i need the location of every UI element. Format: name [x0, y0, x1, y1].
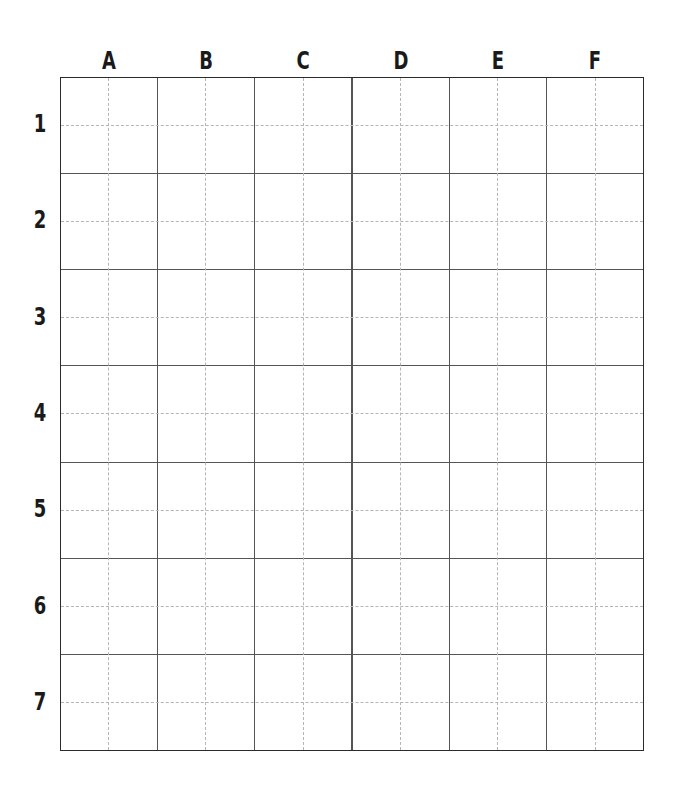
row-center-guide: [61, 221, 643, 222]
row-divider: [61, 173, 643, 174]
row-center-guide: [61, 702, 643, 703]
row-center-guide: [61, 125, 643, 126]
row-center-guide: [61, 606, 643, 607]
row-divider: [61, 654, 643, 655]
column-label-e: E: [492, 48, 504, 73]
column-label-d: D: [393, 48, 408, 73]
row-label-4: 4: [34, 400, 47, 425]
row-label-5: 5: [34, 496, 47, 521]
column-label-b: B: [199, 48, 213, 73]
column-label-c: C: [297, 48, 310, 73]
row-divider: [61, 462, 643, 463]
row-label-7: 7: [34, 688, 47, 713]
column-label-f: F: [589, 48, 601, 73]
row-label-2: 2: [34, 207, 47, 232]
coordinate-grid-worksheet: ABCDEF 1234567: [0, 0, 678, 792]
grid-area: [60, 77, 644, 751]
row-divider: [61, 365, 643, 366]
row-center-guide: [61, 317, 643, 318]
row-center-guide: [61, 413, 643, 414]
row-divider: [61, 558, 643, 559]
row-label-1: 1: [34, 111, 47, 136]
row-label-3: 3: [34, 303, 47, 328]
row-divider: [61, 269, 643, 270]
row-center-guide: [61, 510, 643, 511]
row-label-6: 6: [34, 592, 47, 617]
column-label-a: A: [102, 48, 116, 73]
